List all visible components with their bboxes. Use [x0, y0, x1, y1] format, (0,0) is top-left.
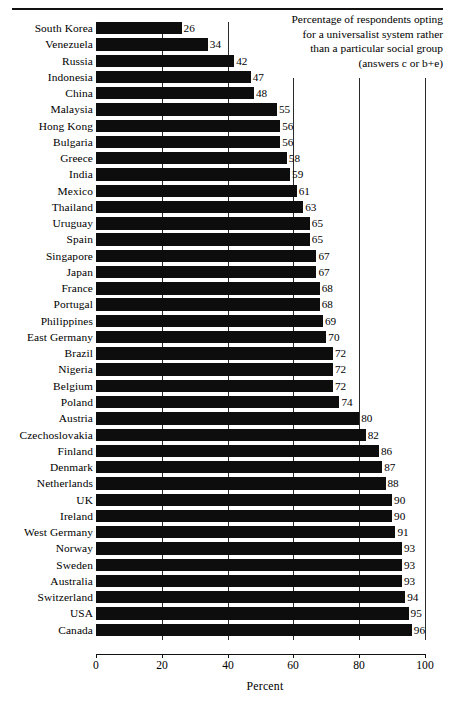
category-label: Singapore: [0, 250, 93, 263]
category-label: Malaysia: [0, 103, 93, 116]
bar: [96, 477, 386, 489]
bar: [96, 461, 382, 473]
bar-value-label: 72: [335, 363, 346, 376]
category-label: Finland: [0, 445, 93, 458]
bar: [96, 363, 333, 375]
bar: [96, 575, 402, 587]
bar: [96, 185, 297, 197]
category-label: Ireland: [0, 510, 93, 523]
bar: [96, 526, 395, 538]
x-tick-label-60: 60: [273, 659, 313, 673]
bar-value-label: 93: [404, 575, 415, 588]
bar: [96, 282, 320, 294]
category-label: UK: [0, 494, 93, 507]
category-label: Canada: [0, 624, 93, 637]
category-label: Austria: [0, 412, 93, 425]
bar-row: Ireland90: [0, 510, 454, 526]
bar: [96, 331, 326, 343]
category-label: Uruguay: [0, 217, 93, 230]
bar-row: Uruguay65: [0, 217, 454, 233]
bar: [96, 559, 402, 571]
bar-row: Australia93: [0, 575, 454, 591]
category-label: Philippines: [0, 315, 93, 328]
category-label: Bulgaria: [0, 136, 93, 149]
bar-row: Brazil72: [0, 347, 454, 363]
bar-value-label: 88: [388, 477, 399, 490]
bar-value-label: 65: [312, 217, 323, 230]
bar-value-label: 26: [184, 22, 195, 35]
bar-row: Japan67: [0, 266, 454, 282]
bar-value-label: 42: [236, 55, 247, 68]
bar-row: Switzerland94: [0, 591, 454, 607]
x-tick-label-100: 100: [405, 659, 445, 673]
x-tick-60: [293, 654, 294, 658]
bar-value-label: 65: [312, 233, 323, 246]
bar-row: Poland74: [0, 396, 454, 412]
bar-row: China48: [0, 87, 454, 103]
category-label: China: [0, 87, 93, 100]
bar-row: Singapore67: [0, 250, 454, 266]
category-label: Denmark: [0, 461, 93, 474]
bar-row: Thailand63: [0, 201, 454, 217]
category-label: Poland: [0, 396, 93, 409]
bar-row: Sweden93: [0, 559, 454, 575]
x-tick-20: [162, 654, 163, 658]
category-label: USA: [0, 607, 93, 620]
bar-row: Netherlands88: [0, 477, 454, 493]
bar-chart: Percentage of respondents opting for a u…: [0, 0, 454, 704]
bar-row: Denmark87: [0, 461, 454, 477]
bar-value-label: 94: [407, 591, 418, 604]
category-label: Belgium: [0, 380, 93, 393]
bar-row: Norway93: [0, 542, 454, 558]
bar-value-label: 91: [397, 526, 408, 539]
bar-row: Venezuela34: [0, 38, 454, 54]
category-label: Thailand: [0, 201, 93, 214]
bar: [96, 266, 316, 278]
x-tick-100: [425, 654, 426, 658]
category-label: Switzerland: [0, 591, 93, 604]
bar: [96, 250, 316, 262]
category-label: East Germany: [0, 331, 93, 344]
bar: [96, 87, 254, 99]
bar-value-label: 67: [318, 266, 329, 279]
bar: [96, 103, 277, 115]
category-label: Czechoslovakia: [0, 429, 93, 442]
bar-value-label: 70: [328, 331, 339, 344]
category-label: Hong Kong: [0, 120, 93, 133]
bar-value-label: 80: [361, 412, 372, 425]
x-tick-label-0: 0: [76, 659, 116, 673]
x-tick-80: [359, 654, 360, 658]
bar-value-label: 93: [404, 542, 415, 555]
category-label: Indonesia: [0, 71, 93, 84]
bar: [96, 71, 251, 83]
category-label: Japan: [0, 266, 93, 279]
bar-value-label: 69: [325, 315, 336, 328]
bar: [96, 136, 280, 148]
category-label: Russia: [0, 55, 93, 68]
bar-value-label: 96: [414, 624, 425, 637]
bar-row: France68: [0, 282, 454, 298]
bar: [96, 315, 323, 327]
category-label: Australia: [0, 575, 93, 588]
bar-value-label: 56: [282, 120, 293, 133]
bar-row: Canada96: [0, 624, 454, 640]
bar: [96, 445, 379, 457]
bar-row: Greece58: [0, 152, 454, 168]
bar-value-label: 47: [253, 71, 264, 84]
category-label: France: [0, 282, 93, 295]
bar: [96, 38, 208, 50]
bar-value-label: 74: [341, 396, 352, 409]
bar-value-label: 63: [305, 201, 316, 214]
bar-value-label: 56: [282, 136, 293, 149]
bar: [96, 120, 280, 132]
bar: [96, 380, 333, 392]
bar-value-label: 90: [394, 494, 405, 507]
category-label: Sweden: [0, 559, 93, 572]
category-label: Spain: [0, 233, 93, 246]
bar-row: Russia42: [0, 55, 454, 71]
bar-value-label: 61: [299, 185, 310, 198]
bar: [96, 201, 303, 213]
bar-value-label: 48: [256, 87, 267, 100]
bar: [96, 494, 392, 506]
bar-row: Belgium72: [0, 380, 454, 396]
